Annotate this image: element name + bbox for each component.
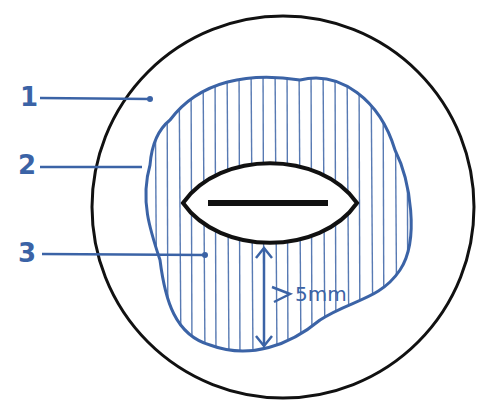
dimension-arrow <box>256 248 290 346</box>
leader-1 <box>40 98 150 99</box>
diagram-canvas <box>0 0 478 409</box>
label-2: 2 <box>18 150 36 180</box>
leader-3 <box>42 254 205 255</box>
dimension-label: 5mm <box>295 282 347 306</box>
label-1: 1 <box>20 82 38 112</box>
label-3: 3 <box>18 238 36 268</box>
